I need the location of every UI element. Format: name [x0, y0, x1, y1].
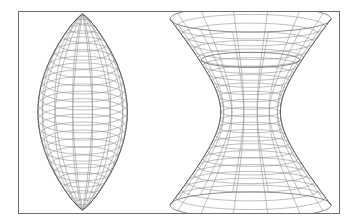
- lemon-parallel: [38, 99, 127, 126]
- hyperboloid-meridian: [277, 25, 323, 211]
- lemon-parallel: [47, 56, 118, 77]
- hyperboloid-meridian: [178, 13, 224, 199]
- hyperboloid-parallel: [187, 171, 314, 192]
- hyperboloid-parallel: [187, 32, 314, 53]
- hyperboloid-parallel: [218, 91, 283, 102]
- hyperboloid-parallel: [203, 151, 299, 167]
- hyperboloid-parallel: [176, 185, 325, 210]
- hyperboloid-top-rim: [170, 12, 331, 32]
- hyperboloid-meridian: [269, 12, 301, 195]
- hyperboloid-meridian: [200, 12, 232, 195]
- hyperboloid-surface: [170, 12, 331, 213]
- lemon-parallel: [74, 200, 90, 205]
- hyperboloid-parallel: [218, 122, 283, 133]
- lemon-parallel: [40, 77, 125, 102]
- hyperboloid-meridian: [277, 13, 323, 199]
- hyperboloid-meridian: [178, 25, 224, 211]
- hyperboloid-parallel: [176, 14, 325, 39]
- hyperboloid-parallel: [212, 75, 290, 88]
- lemon-surface: [38, 14, 127, 210]
- hyperboloid-parallel: [181, 178, 319, 201]
- hyperboloid-parallel: [212, 137, 290, 150]
- lemon-parallel: [40, 122, 125, 147]
- surfaces-figure: [19, 12, 339, 213]
- figure-border-panel: [18, 11, 340, 214]
- lemon-parallel: [74, 19, 90, 24]
- lemon-parallel: [58, 37, 106, 51]
- lemon-parallel: [47, 147, 118, 168]
- hyperboloid-parallel: [181, 23, 319, 46]
- hyperboloid-parallel: [221, 107, 281, 117]
- lemon-parallel: [58, 173, 106, 187]
- hyperboloid-parallel: [220, 99, 281, 109]
